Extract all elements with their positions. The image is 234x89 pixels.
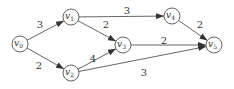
node-v1: v1 <box>63 9 79 25</box>
node-v4: v4 <box>164 8 180 24</box>
edge-weight-label: 2 <box>103 19 109 30</box>
edge-v0-v2: 2 <box>27 48 64 71</box>
edge-weight-label: 2 <box>161 35 167 46</box>
edge-weight-label: 2 <box>36 60 42 71</box>
edge-line <box>27 21 64 41</box>
edge-v3-v5: 2 <box>131 35 206 46</box>
edge-line <box>27 48 64 69</box>
edge-weight-label: 3 <box>37 19 43 30</box>
node-v3: v3 <box>115 37 131 53</box>
edge-weight-label: 3 <box>124 5 130 16</box>
edge-line <box>78 21 116 41</box>
nodes: v0v1v2v3v4v5 <box>12 8 222 81</box>
edge-v0-v1: 3 <box>27 19 64 40</box>
edge-weight-label: 2 <box>197 19 203 30</box>
edge-v2-v5: 3 <box>79 47 206 78</box>
node-v0: v0 <box>12 36 28 52</box>
edge-v2-v3: 4 <box>78 49 116 69</box>
edge-v4-v5: 2 <box>179 19 208 40</box>
edge-v1-v4: 3 <box>79 5 164 17</box>
edge-weight-label: 4 <box>90 53 96 64</box>
edge-weight-label: 3 <box>141 67 147 78</box>
node-v5: v5 <box>206 37 222 53</box>
weighted-directed-graph: 32234322 v0v1v2v3v4v5 <box>0 0 234 89</box>
edge-v1-v3: 2 <box>78 19 116 41</box>
edge-line <box>78 49 116 69</box>
edge-line <box>79 16 164 17</box>
node-v2: v2 <box>63 65 79 81</box>
